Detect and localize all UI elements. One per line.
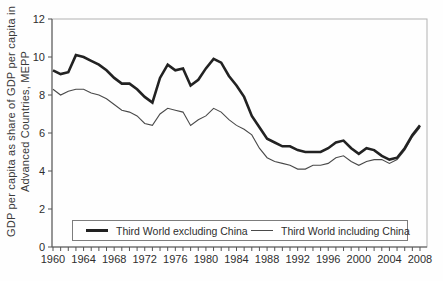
svg-text:0: 0 bbox=[39, 241, 45, 253]
svg-text:1960: 1960 bbox=[41, 253, 65, 265]
legend-thin-line-sample bbox=[251, 230, 273, 231]
y-axis-tick-labels: 024681012 bbox=[33, 13, 45, 253]
svg-text:2000: 2000 bbox=[347, 253, 371, 265]
y-axis-label-line2: Advanced Countries, MEPP bbox=[19, 51, 31, 192]
svg-text:1972: 1972 bbox=[133, 253, 157, 265]
legend: Third World excluding China Third World … bbox=[72, 220, 408, 241]
svg-text:10: 10 bbox=[33, 51, 45, 63]
svg-text:1988: 1988 bbox=[255, 253, 279, 265]
svg-text:2008: 2008 bbox=[408, 253, 432, 265]
series-including-china-line bbox=[53, 89, 420, 169]
x-axis-ticks bbox=[53, 247, 420, 251]
svg-text:12: 12 bbox=[33, 13, 45, 25]
svg-text:1980: 1980 bbox=[194, 253, 218, 265]
svg-text:1964: 1964 bbox=[71, 253, 95, 265]
y-axis-label-line1: GDP per capita as share of GDP per capit… bbox=[5, 6, 17, 237]
series-excluding-china-line bbox=[53, 55, 420, 160]
x-axis-tick-labels: 1960196419681972197619801984198819921996… bbox=[41, 253, 432, 265]
svg-text:1992: 1992 bbox=[285, 253, 309, 265]
legend-entry-excluding: Third World excluding China bbox=[86, 221, 248, 240]
y-axis-ticks bbox=[48, 19, 52, 247]
svg-text:1996: 1996 bbox=[316, 253, 340, 265]
chart-figure: 024681012 196019641968197219761980198419… bbox=[0, 0, 443, 281]
svg-text:1968: 1968 bbox=[102, 253, 126, 265]
legend-label-including: Third World including China bbox=[281, 225, 410, 237]
svg-text:2: 2 bbox=[39, 203, 45, 215]
svg-text:1984: 1984 bbox=[224, 253, 248, 265]
plot-frame bbox=[52, 19, 427, 247]
legend-entry-including: Third World including China bbox=[251, 221, 410, 240]
legend-label-excluding: Third World excluding China bbox=[116, 225, 248, 237]
svg-text:1976: 1976 bbox=[163, 253, 187, 265]
svg-text:4: 4 bbox=[39, 165, 45, 177]
legend-thick-line-sample bbox=[86, 229, 108, 232]
svg-text:2004: 2004 bbox=[377, 253, 401, 265]
svg-text:6: 6 bbox=[39, 127, 45, 139]
svg-text:8: 8 bbox=[39, 89, 45, 101]
